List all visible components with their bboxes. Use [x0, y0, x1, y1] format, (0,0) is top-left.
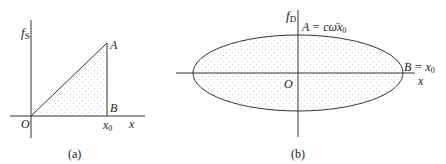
point-a-label: A = cω̄x0 [301, 20, 346, 35]
caption-a: (a) [68, 147, 81, 161]
diagram-canvas: fS A B O x0 x (a) fD A = cω̄x0 B = x0 x … [0, 0, 446, 164]
origin-label: O [284, 77, 293, 91]
origin-label: O [21, 117, 30, 131]
panel-b: fD A = cω̄x0 B = x0 x O (b) [176, 8, 435, 161]
y-axis-label-fd: fD [286, 8, 297, 24]
caption-b: (b) [291, 147, 305, 161]
panel-a: fS A B O x0 x (a) [10, 20, 145, 161]
y-axis-label-fs: fS [21, 25, 30, 41]
point-b-label: B [110, 101, 118, 115]
point-b-label: B = x0 [404, 60, 435, 75]
point-a-label: A [109, 38, 118, 52]
x0-label: x0 [102, 118, 112, 133]
x-axis-label: x [128, 117, 135, 131]
x-axis-label: x [417, 74, 424, 88]
